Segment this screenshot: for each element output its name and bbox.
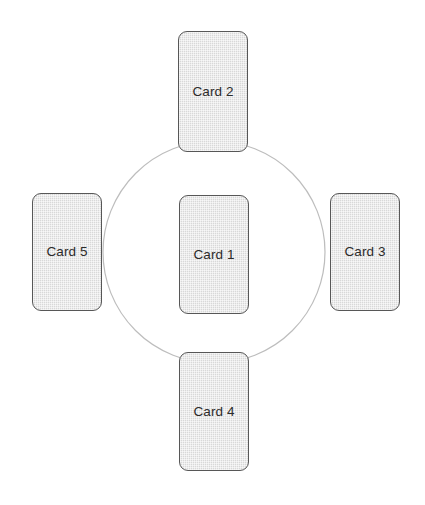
card-4[interactable]: Card 4: [179, 352, 249, 471]
diagram-canvas: Card 1 Card 2 Card 3 Card 4 Card 5: [0, 0, 425, 505]
card-5-label: Card 5: [46, 245, 87, 259]
card-1[interactable]: Card 1: [179, 195, 249, 314]
card-4-label: Card 4: [193, 405, 234, 419]
card-5[interactable]: Card 5: [32, 193, 102, 311]
card-2-label: Card 2: [192, 85, 233, 99]
card-1-label: Card 1: [193, 248, 234, 262]
card-2[interactable]: Card 2: [178, 31, 248, 152]
card-3-label: Card 3: [344, 245, 385, 259]
card-3[interactable]: Card 3: [330, 193, 400, 311]
